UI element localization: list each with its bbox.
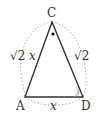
edge-label-cd-root: √2 [74,49,89,63]
vertex-label-d: D [81,99,91,113]
edge-label-ac-var: x [29,49,36,63]
edge-label-ad-var: x [50,99,57,113]
triangle-diagram: C A D √2 x √2 x [0,0,102,116]
angle-dot-c [51,32,54,35]
vertex-label-a: A [15,99,25,113]
edge-label-ac-root: √2 [10,49,25,63]
vertex-label-c: C [47,6,56,20]
